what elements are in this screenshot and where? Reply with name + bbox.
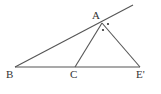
line-BA-extended — [15, 5, 133, 67]
segment-AC — [75, 23, 102, 67]
point-label-B: B — [6, 68, 13, 80]
point-label-E: E' — [136, 68, 145, 80]
diagram-canvas: A B C E' — [0, 0, 161, 94]
angle-mark-dot — [107, 23, 109, 25]
point-label-C: C — [70, 68, 77, 80]
segment-AE — [102, 23, 140, 67]
point-label-A: A — [92, 9, 100, 21]
angle-mark-dot — [102, 29, 104, 31]
geometry-figure: A B C E' — [0, 0, 161, 94]
